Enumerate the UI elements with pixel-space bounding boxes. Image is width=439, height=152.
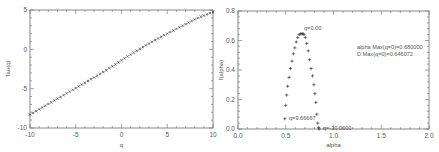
left-plot-frame — [30, 10, 213, 128]
annotation-peak: q=0.00 — [304, 25, 321, 31]
right-x-axis-title: alpha — [326, 142, 341, 148]
left-x-tick-labels: -10-50510 — [25, 131, 217, 138]
y-tick-label: 0.8 — [226, 7, 235, 14]
right-x-tick-labels: 0.00.51.01.52.0 — [233, 132, 433, 139]
y-tick-label: 0 — [23, 46, 27, 53]
x-tick-label: 0.5 — [281, 132, 290, 139]
x-tick-label: 1.5 — [377, 132, 386, 139]
annotation-q-min: q=-10.0000 — [323, 125, 351, 131]
tau-q-plot: -10-50510 -10-505 q Tau(q) — [5, 6, 217, 148]
left-y-tick-labels: -10-505 — [18, 6, 28, 131]
annotation-d-max: D Max(q=0)=0.646072 — [357, 51, 413, 57]
annotation-alpha-max: alpha Max(q=0)=0.680000 — [357, 44, 423, 50]
f-alpha-plot: 0.00.51.01.52.0 0.00.20.40.60.8 alpha f(… — [218, 7, 434, 148]
x-tick-label: 2.0 — [424, 132, 433, 139]
x-tick-label: -5 — [73, 131, 79, 138]
left-x-axis-title: q — [120, 142, 123, 148]
x-tick-label: 5 — [165, 131, 169, 138]
y-tick-label: -5 — [21, 85, 27, 92]
right-y-tick-labels: 0.00.20.40.60.8 — [226, 7, 235, 132]
annotation-q-max: q=9.66667 — [289, 115, 316, 121]
left-y-axis-title: Tau(q) — [5, 60, 11, 77]
x-tick-label: 10 — [209, 131, 217, 138]
x-tick-label: 0 — [120, 131, 124, 138]
y-tick-label: 0.6 — [226, 37, 235, 44]
y-tick-label: 5 — [23, 6, 27, 13]
chart-canvas: -10-50510 -10-505 q Tau(q) 0.00.51.01.52… — [0, 0, 439, 152]
x-tick-label: 0.0 — [233, 132, 242, 139]
y-tick-label: 0.0 — [226, 125, 235, 132]
y-tick-label: 0.4 — [226, 66, 235, 73]
y-tick-label: 0.2 — [226, 96, 235, 103]
y-tick-label: -10 — [18, 124, 28, 131]
x-tick-label: 1.0 — [329, 132, 338, 139]
tau-data-points — [29, 11, 214, 116]
left-plot-ticks — [30, 10, 213, 128]
right-plot-frame — [238, 11, 429, 129]
right-plot-ticks — [238, 11, 429, 129]
right-y-axis-title: f(alpha) — [218, 60, 224, 80]
x-tick-label: -10 — [25, 131, 35, 138]
